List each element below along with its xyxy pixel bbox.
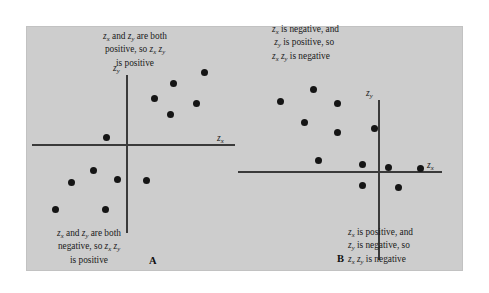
data-point <box>385 164 392 171</box>
data-point <box>102 206 109 213</box>
data-point <box>315 157 322 164</box>
caption-b-bottom: zx is positive, and zy is negative, so z… <box>348 227 478 267</box>
panel-label-b: B <box>337 253 344 264</box>
caption-b-top: zx is negative, and zy is positive, so z… <box>272 24 402 64</box>
data-point <box>371 125 378 132</box>
data-point <box>201 69 208 76</box>
data-point <box>395 184 402 191</box>
x-axis-label-b: zx <box>427 160 434 171</box>
data-point <box>359 182 366 189</box>
figure-panel: zx and zy are both positive, so zx zy is… <box>27 27 462 270</box>
y-axis-a <box>126 75 128 233</box>
x-axis-b <box>238 171 442 173</box>
x-axis-label-a: zx <box>217 133 224 144</box>
data-point <box>193 100 200 107</box>
data-point <box>359 161 366 168</box>
data-point <box>114 176 121 183</box>
data-point <box>301 119 308 126</box>
data-point <box>334 129 341 136</box>
data-point <box>334 100 341 107</box>
y-axis-label-a: zy <box>113 63 120 74</box>
data-point <box>151 95 158 102</box>
data-point <box>167 111 174 118</box>
scatter-panel-b: zx is negative, and zy is positive, so z… <box>245 27 462 270</box>
y-axis-label-b: zy <box>366 88 373 99</box>
data-point <box>143 177 150 184</box>
data-point <box>52 206 59 213</box>
panel-label-a: A <box>149 255 157 266</box>
data-point <box>103 134 110 141</box>
x-axis-a <box>32 144 235 146</box>
data-point <box>277 98 284 105</box>
data-point <box>417 165 424 172</box>
scatter-panel-a: zx and zy are both positive, so zx zy is… <box>27 27 244 270</box>
data-point <box>310 86 317 93</box>
data-point <box>90 167 97 174</box>
data-point <box>170 80 177 87</box>
caption-a-top: zx and zy are both positive, so zx zy is… <box>70 31 200 69</box>
data-point <box>68 179 75 186</box>
caption-a-bottom: zx and zy are both negative, so zx zy is… <box>24 228 154 266</box>
